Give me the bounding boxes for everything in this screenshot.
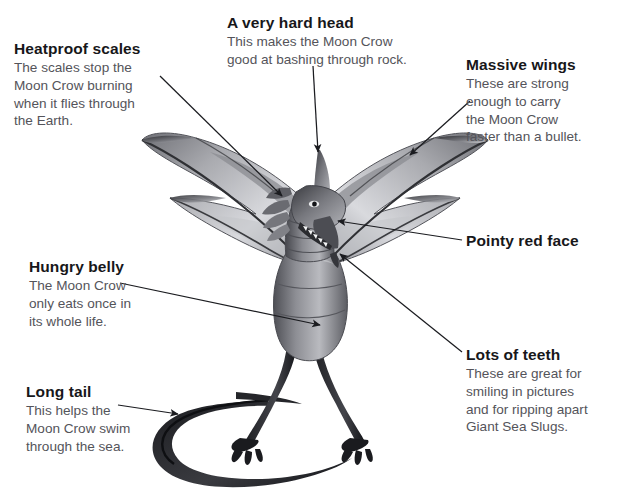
callout-title: A very hard head [227,14,407,32]
callout-long-tail: Long tail This helps the Moon Crow swim … [26,383,130,455]
callout-body: This makes the Moon Crow good at bashing… [227,33,407,68]
callout-title: Hungry belly [29,258,131,276]
callout-title: Lots of teeth [466,346,588,364]
callout-title: Long tail [26,383,130,401]
callout-body: This helps the Moon Crow swim through th… [26,402,130,455]
leader-hungry-belly [120,283,320,325]
callout-pointy-red-face: Pointy red face [466,232,579,250]
callout-body: The scales stop the Moon Crow burning wh… [14,59,141,130]
callout-title: Heatproof scales [14,40,141,58]
callout-lots-of-teeth: Lots of teeth These are great for smilin… [466,346,588,436]
callout-title: Massive wings [466,56,582,74]
callout-massive-wings: Massive wings These are strong enough to… [466,56,582,146]
callout-title: Pointy red face [466,232,579,250]
callout-heatproof-scales: Heatproof scales The scales stop the Moo… [14,40,141,130]
leader-massive-wings [410,101,470,155]
annotated-figure: Heatproof scales The scales stop the Moo… [0,0,633,488]
callout-a-very-hard-head: A very hard head This makes the Moon Cro… [227,14,407,69]
leader-hard-head [313,66,318,152]
callout-body: The Moon Crow only eats once in its whol… [29,277,131,330]
callout-hungry-belly: Hungry belly The Moon Crow only eats onc… [29,258,131,330]
callout-body: These are strong enough to carry the Moo… [466,75,582,146]
leader-pointy-red-face [338,221,462,240]
leader-heatproof-scales [160,76,282,196]
callout-body: These are great for smiling in pictures … [466,365,588,436]
leader-lots-of-teeth [340,254,462,352]
